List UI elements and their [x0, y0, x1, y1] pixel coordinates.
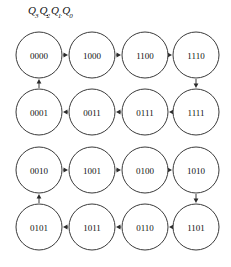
- edge-0010-to-1001: [63, 168, 68, 173]
- state-node-label: 1011: [83, 223, 101, 233]
- state-node-label: 1110: [187, 51, 205, 61]
- state-node-label: 1101: [187, 223, 205, 233]
- edge-0110-to-1011: [116, 225, 121, 230]
- edge-1110-to-1111: [194, 79, 199, 88]
- state-node: 0100: [122, 147, 168, 193]
- state-node: 1010: [173, 147, 219, 193]
- state-node-label: 0010: [30, 166, 49, 176]
- state-node: 0110: [122, 204, 168, 250]
- edge-1011-to-0101: [63, 225, 68, 230]
- state-node-label: 1000: [83, 51, 102, 61]
- edge-0101-to-0010: [37, 194, 42, 203]
- state-node-label: 1001: [83, 166, 101, 176]
- state-node: 1001: [69, 147, 115, 193]
- state-node-label: 1100: [136, 51, 154, 61]
- state-node: 0101: [16, 204, 62, 250]
- state-node: 1110: [173, 32, 219, 78]
- state-node: 1111: [173, 89, 219, 135]
- edge-1001-to-0100: [116, 168, 121, 173]
- state-node: 0010: [16, 147, 62, 193]
- state-node: 1101: [173, 204, 219, 250]
- state-node: 0000: [16, 32, 62, 78]
- state-node-label: 0110: [136, 223, 154, 233]
- edge-1010-to-1101: [194, 194, 199, 203]
- edge-1000-to-1100: [116, 53, 121, 58]
- edge-0111-to-0011: [116, 110, 121, 115]
- node-layer: 0000100011001110000100110111111100101001…: [16, 32, 219, 250]
- graph-canvas: 0000100011001110000100110111111100101001…: [0, 0, 231, 267]
- state-node: 1100: [122, 32, 168, 78]
- state-node-label: 0001: [30, 108, 48, 118]
- state-node: 1011: [69, 204, 115, 250]
- state-node: 0001: [16, 89, 62, 135]
- state-node-label: 0000: [30, 51, 49, 61]
- edge-0001-to-0000: [37, 79, 42, 88]
- edge-layer: [37, 53, 199, 230]
- state-node: 1000: [69, 32, 115, 78]
- state-node-label: 1010: [187, 166, 206, 176]
- state-node-label: 0011: [83, 108, 101, 118]
- edge-0000-to-1000: [63, 53, 68, 58]
- state-node: 0011: [69, 89, 115, 135]
- state-node-label: 0111: [136, 108, 153, 118]
- state-node-label: 0100: [136, 166, 155, 176]
- state-node-label: 1111: [188, 108, 205, 118]
- edge-0011-to-0001: [63, 110, 68, 115]
- state-node-label: 0101: [30, 223, 48, 233]
- state-node: 0111: [122, 89, 168, 135]
- state-diagram: Q3Q2Q1Q0 0000100011001110000100110111111…: [0, 0, 231, 267]
